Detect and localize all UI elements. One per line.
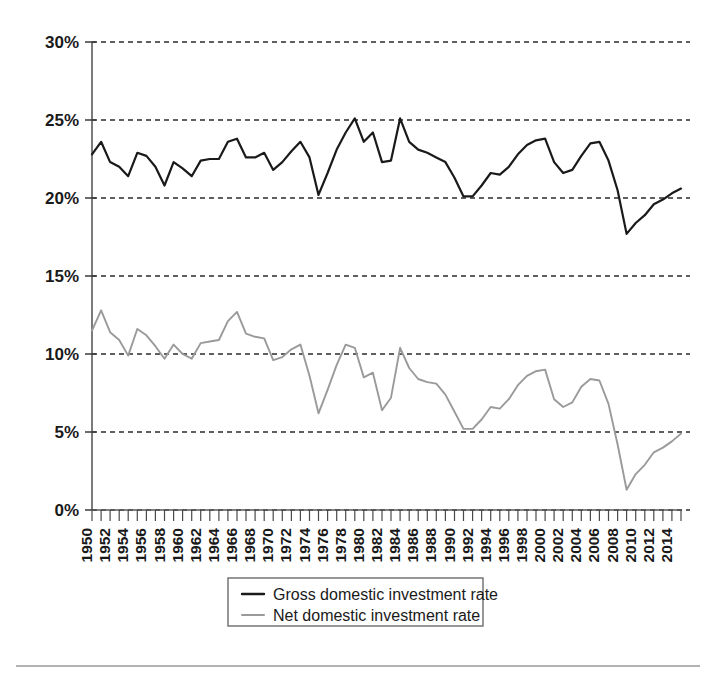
x-tick-label: 2006 [585,528,602,563]
x-tick-label: 1964 [205,528,222,563]
chart-legend: Gross domestic investment rateNet domest… [228,578,498,626]
legend-label-gross: Gross domestic investment rate [273,586,498,603]
legend-label-net: Net domestic investment rate [273,607,480,624]
x-tick-label: 1976 [314,528,331,563]
x-tick-label: 1960 [169,528,186,562]
x-tick-label: 1998 [513,528,530,563]
x-tick-label: 1978 [332,528,349,563]
x-tick-label: 1958 [151,528,168,563]
x-tick-label: 1962 [187,528,204,562]
x-tick-label: 1968 [241,528,258,563]
x-tick-label: 2002 [549,528,566,562]
x-tick-label: 1982 [368,528,385,562]
x-tick-label: 2010 [622,528,639,562]
x-tick-label: 2004 [567,528,584,563]
x-tick-label: 2000 [531,528,548,562]
y-tick-label: 30% [45,33,79,52]
y-tick-label: 0% [54,501,79,520]
x-tick-label: 1980 [350,528,367,562]
x-tick-label: 1970 [259,528,276,562]
y-tick-label: 5% [54,423,79,442]
investment-rate-line-chart: 0%5%10%15%20%25%30% 19501952195419561958… [0,0,711,683]
x-tick-label: 2012 [640,528,657,562]
x-tick-label: 2014 [658,528,675,563]
chart-figure: 0%5%10%15%20%25%30% 19501952195419561958… [0,0,711,683]
y-tick-label: 15% [45,267,79,286]
x-tick-label: 2008 [604,528,621,563]
x-tick-label: 1972 [277,528,294,562]
x-tick-label: 1966 [223,528,240,563]
x-tick-label: 1956 [132,528,149,563]
y-tick-label: 20% [45,189,79,208]
x-tick-label: 1988 [422,528,439,563]
x-tick-label: 1952 [96,528,113,562]
x-tick-label: 1992 [459,528,476,562]
x-tick-label: 1994 [477,528,494,563]
x-tick-label: 1984 [386,528,403,563]
x-tick-label: 1990 [441,528,458,562]
y-tick-label: 10% [45,345,79,364]
x-tick-label: 1986 [404,528,421,563]
x-tick-label: 1996 [495,528,512,563]
x-tick-label: 1954 [114,528,131,563]
x-tick-label: 1974 [296,528,313,563]
x-tick-label: 1950 [78,528,95,562]
y-tick-label: 25% [45,111,79,130]
